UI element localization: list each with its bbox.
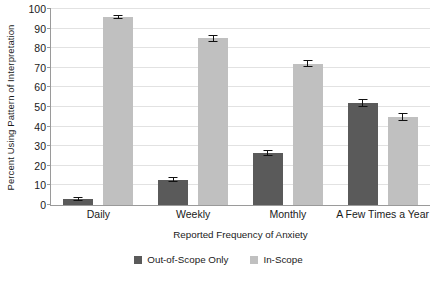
bar-chart-figure: Percent Using Pattern of Interpretation … — [0, 0, 437, 285]
error-bar — [209, 35, 218, 42]
legend-label: In-Scope — [263, 254, 302, 265]
y-axis-title: Percent Using Pattern of Interpretation — [5, 24, 16, 190]
bar[interactable] — [293, 64, 323, 205]
y-tick-label: 100 — [28, 4, 46, 15]
error-bar-cap-bottom — [74, 200, 83, 201]
bar-group — [335, 9, 430, 205]
bar-slot — [388, 9, 418, 205]
y-axis-title-container: Percent Using Pattern of Interpretation — [0, 0, 20, 215]
y-axis-tick-labels: 0102030405060708090100 — [18, 9, 46, 205]
error-bar-cap-top — [303, 60, 312, 61]
error-bar-cap-bottom — [169, 181, 178, 182]
error-bar-cap-bottom — [209, 41, 218, 42]
bar[interactable] — [158, 180, 188, 205]
bar-slot — [348, 9, 378, 205]
y-tick-label: 80 — [34, 43, 46, 54]
bar[interactable] — [388, 117, 418, 205]
bar-slot — [198, 9, 228, 205]
bar-groups — [51, 9, 430, 205]
bar-slot — [103, 9, 133, 205]
legend-item[interactable]: In-Scope — [250, 254, 302, 265]
error-bar-cap-bottom — [358, 106, 367, 107]
bar-group — [241, 9, 336, 205]
error-bar-cap-top — [114, 15, 123, 16]
error-bar — [303, 60, 312, 67]
x-axis-tick-labels: DailyWeeklyMonthlyA Few Times a Year — [51, 208, 430, 220]
x-axis-title: Reported Frequency of Anxiety — [51, 229, 430, 240]
error-bar — [114, 15, 123, 19]
y-tick-label: 50 — [34, 102, 46, 113]
bar-slot — [253, 9, 283, 205]
error-bar — [263, 150, 272, 156]
x-tick-label: A Few Times a Year — [335, 208, 430, 220]
y-tick-label: 40 — [34, 121, 46, 132]
error-bar — [74, 197, 83, 202]
error-bar-cap-top — [74, 197, 83, 198]
x-tick-label: Monthly — [241, 208, 336, 220]
x-tick-label: Weekly — [146, 208, 241, 220]
legend-label: Out-of-Scope Only — [147, 254, 228, 265]
y-tick-label: 30 — [34, 141, 46, 152]
bar[interactable] — [348, 103, 378, 205]
legend-swatch-icon — [250, 256, 258, 264]
bar-group — [51, 9, 146, 205]
legend-item[interactable]: Out-of-Scope Only — [134, 254, 228, 265]
error-bar — [358, 99, 367, 107]
bar-slot — [63, 9, 93, 205]
y-tick-label: 0 — [40, 200, 46, 211]
error-bar-cap-bottom — [303, 66, 312, 67]
plot-area — [50, 9, 430, 206]
error-bar-cap-top — [169, 177, 178, 178]
y-tick-label: 70 — [34, 63, 46, 74]
bar[interactable] — [103, 17, 133, 205]
y-tick-label: 60 — [34, 82, 46, 93]
legend-swatch-icon — [134, 256, 142, 264]
bar-slot — [293, 9, 323, 205]
error-bar — [169, 177, 178, 183]
error-bar-cap-top — [263, 150, 272, 151]
chart-legend: Out-of-Scope OnlyIn-Scope — [0, 254, 437, 265]
error-bar-cap-top — [358, 99, 367, 100]
error-bar-cap-bottom — [114, 18, 123, 19]
error-bar-cap-bottom — [263, 155, 272, 156]
y-tick-label: 90 — [34, 23, 46, 34]
bar[interactable] — [198, 38, 228, 205]
error-bar-cap-bottom — [398, 120, 407, 121]
bar[interactable] — [253, 153, 283, 205]
y-tick-label: 20 — [34, 161, 46, 172]
bar-slot — [158, 9, 188, 205]
x-tick-label: Daily — [51, 208, 146, 220]
error-bar — [398, 113, 407, 121]
y-tick-label: 10 — [34, 180, 46, 191]
error-bar-cap-top — [209, 35, 218, 36]
error-bar-cap-top — [398, 113, 407, 114]
bar-group — [146, 9, 241, 205]
